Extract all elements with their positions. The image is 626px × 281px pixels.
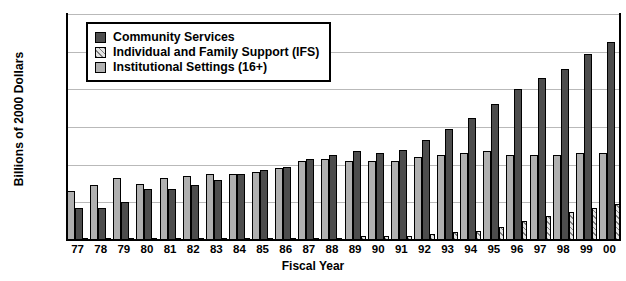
bar-ifs — [499, 227, 504, 240]
bar-ifs — [106, 238, 111, 240]
bar-institutional — [229, 174, 237, 240]
bar-institutional — [275, 168, 283, 240]
bar-institutional — [368, 161, 376, 240]
bar-institutional — [206, 174, 214, 240]
bar-group — [598, 14, 621, 240]
bar-ifs — [176, 238, 181, 240]
bar-group — [367, 14, 390, 240]
bar-ifs — [384, 236, 389, 240]
x-tick-label: 93 — [436, 243, 459, 255]
bar-institutional — [530, 155, 538, 240]
bar-ifs — [129, 238, 134, 240]
ifs-swatch-icon — [95, 47, 106, 58]
x-tick-label: 97 — [529, 243, 552, 255]
bar-community — [399, 150, 407, 240]
x-tick-label: 92 — [413, 243, 436, 255]
bar-community — [514, 89, 522, 240]
legend-label: Institutional Settings (16+) — [113, 60, 267, 74]
x-tick-label: 90 — [367, 243, 390, 255]
bar-institutional — [321, 159, 329, 240]
bar-ifs — [152, 238, 157, 240]
bar-community — [353, 151, 361, 240]
x-tick-label: 80 — [135, 243, 158, 255]
bar-group — [459, 14, 482, 240]
bar-ifs — [337, 238, 342, 240]
x-tick-label: 98 — [552, 243, 575, 255]
x-tick-label: 83 — [205, 243, 228, 255]
bar-institutional — [576, 153, 584, 240]
bar-group — [505, 14, 528, 240]
bar-ifs — [407, 236, 412, 240]
bar-community — [607, 42, 615, 240]
bar-community — [445, 129, 453, 240]
bar-ifs — [314, 238, 319, 240]
x-tick-label: 91 — [390, 243, 413, 255]
x-tick-label: 95 — [482, 243, 505, 255]
x-tick-label: 77 — [66, 243, 89, 255]
bar-ifs — [222, 238, 227, 240]
bar-institutional — [345, 161, 353, 240]
bar-institutional — [553, 155, 561, 240]
bar-ifs — [245, 238, 250, 240]
bar-group — [344, 14, 367, 240]
bar-community — [214, 180, 222, 240]
bar-ifs — [569, 212, 574, 240]
bar-institutional — [506, 155, 514, 240]
bar-institutional — [298, 161, 306, 240]
community-swatch-icon — [95, 32, 106, 43]
bar-community — [329, 155, 337, 240]
bar-community — [538, 78, 546, 240]
bar-community — [561, 69, 569, 240]
bar-ifs — [615, 204, 620, 240]
legend-item-ifs: Individual and Family Support (IFS) — [95, 45, 319, 59]
bar-group — [413, 14, 436, 240]
x-tick-label: 89 — [344, 243, 367, 255]
legend-label: Community Services — [113, 30, 235, 44]
bar-community — [121, 202, 129, 240]
bar-institutional — [113, 178, 121, 240]
x-axis-tick-labels: 7778798081828384858687888990919293949596… — [66, 243, 621, 255]
bar-community — [144, 189, 152, 240]
bar-institutional — [160, 178, 168, 240]
bar-ifs — [361, 236, 366, 240]
legend-item-institutional: Institutional Settings (16+) — [95, 60, 319, 74]
bar-ifs — [592, 208, 597, 240]
bar-ifs — [453, 232, 458, 240]
bar-institutional — [599, 153, 607, 240]
bar-group — [390, 14, 413, 240]
x-tick-label: 87 — [297, 243, 320, 255]
x-tick-label: 84 — [228, 243, 251, 255]
chart-root: Billions of 2000 Dollars Fiscal Year $1.… — [0, 0, 626, 281]
bar-community — [75, 208, 83, 240]
x-tick-label: 86 — [274, 243, 297, 255]
bar-group — [552, 14, 575, 240]
bar-ifs — [430, 234, 435, 240]
bar-institutional — [437, 155, 445, 240]
bar-institutional — [414, 157, 422, 240]
x-tick-label: 88 — [320, 243, 343, 255]
legend-item-community: Community Services — [95, 30, 319, 44]
bar-institutional — [136, 184, 144, 241]
x-tick-label: 81 — [159, 243, 182, 255]
legend-label: Individual and Family Support (IFS) — [113, 45, 319, 59]
bar-institutional — [483, 151, 491, 240]
bar-ifs — [83, 238, 88, 240]
x-tick-label: 82 — [182, 243, 205, 255]
bar-ifs — [291, 238, 296, 240]
bar-ifs — [546, 216, 551, 240]
x-tick-label: 85 — [251, 243, 274, 255]
bar-group — [529, 14, 552, 240]
bar-community — [491, 104, 499, 240]
bar-community — [468, 118, 476, 240]
x-tick-label: 00 — [598, 243, 621, 255]
bar-ifs — [522, 221, 527, 240]
x-tick-label: 78 — [89, 243, 112, 255]
bar-community — [422, 140, 430, 240]
bar-ifs — [199, 238, 204, 240]
x-tick-label: 99 — [575, 243, 598, 255]
bar-institutional — [183, 176, 191, 240]
x-tick-label: 79 — [112, 243, 135, 255]
institutional-swatch-icon — [95, 62, 106, 73]
bar-ifs — [268, 238, 273, 240]
bar-community — [191, 185, 199, 240]
